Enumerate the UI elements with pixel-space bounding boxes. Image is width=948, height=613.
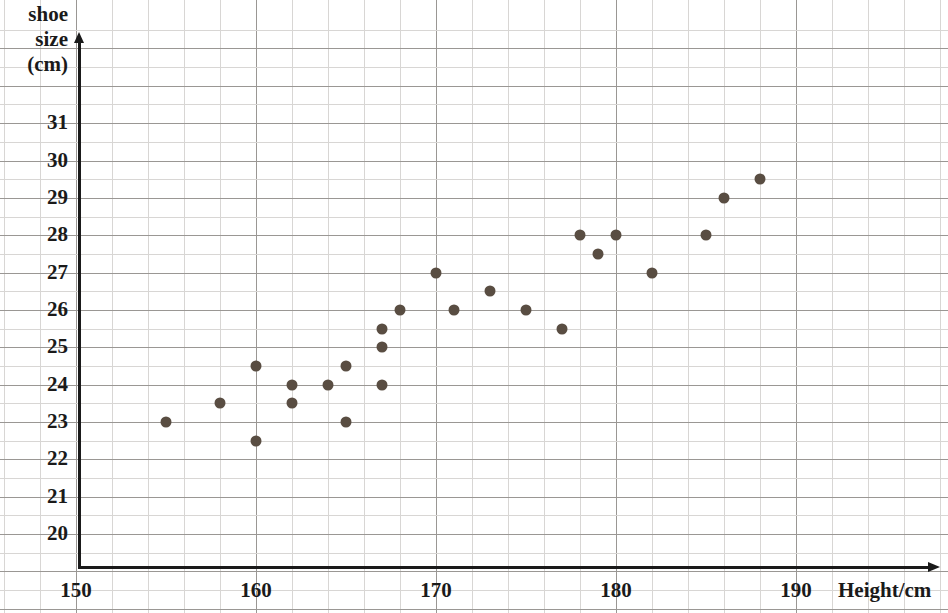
data-point	[575, 230, 586, 241]
gridline-horizontal	[0, 571, 948, 572]
data-point	[341, 360, 352, 371]
x-tick-label: 150	[41, 578, 111, 603]
gridline-vertical	[4, 0, 5, 613]
data-point	[611, 230, 622, 241]
data-point	[485, 286, 496, 297]
gridline-vertical	[364, 0, 365, 613]
gridline-vertical	[508, 0, 509, 613]
gridline-horizontal	[0, 553, 948, 554]
data-point	[647, 267, 658, 278]
data-point	[701, 230, 712, 241]
data-point	[719, 192, 730, 203]
y-axis-title-line-1: size	[0, 27, 68, 52]
y-tick-label: 22	[24, 446, 68, 471]
gridline-horizontal	[0, 403, 948, 404]
gridline-horizontal	[0, 198, 948, 199]
gridline-horizontal	[0, 217, 948, 218]
gridline-vertical	[688, 0, 689, 613]
gridline-vertical	[580, 0, 581, 613]
data-point	[251, 435, 262, 446]
data-point	[215, 398, 226, 409]
data-point	[287, 379, 298, 390]
gridline-vertical	[148, 0, 149, 613]
x-axis-title: Height/cm	[838, 578, 931, 603]
data-point	[395, 304, 406, 315]
y-tick-label: 26	[24, 297, 68, 322]
data-point	[251, 360, 262, 371]
x-tick-label: 160	[221, 578, 291, 603]
gridline-vertical	[832, 0, 833, 613]
x-tick-label: 190	[761, 578, 831, 603]
y-tick-label: 24	[24, 372, 68, 397]
gridline-vertical	[904, 0, 905, 613]
gridline-vertical	[292, 0, 293, 613]
gridline-horizontal	[0, 104, 948, 105]
gridline-horizontal	[0, 385, 948, 386]
gridline-horizontal	[0, 123, 948, 124]
data-point	[449, 304, 460, 315]
x-axis-line	[78, 566, 930, 569]
gridline-vertical	[724, 0, 725, 613]
data-point	[323, 379, 334, 390]
gridline-horizontal	[0, 478, 948, 479]
y-tick-label: 27	[24, 260, 68, 285]
gridline-vertical	[796, 0, 797, 613]
gridline-vertical	[652, 0, 653, 613]
gridline-horizontal	[0, 310, 948, 311]
gridline-horizontal	[0, 459, 948, 460]
y-axis-title-line-0: shoe	[0, 2, 68, 27]
y-tick-label: 31	[24, 110, 68, 135]
gridline-vertical	[256, 0, 257, 613]
gridline-horizontal	[0, 291, 948, 292]
y-tick-label: 20	[24, 521, 68, 546]
gridline-vertical	[544, 0, 545, 613]
gridline-vertical	[328, 0, 329, 613]
gridline-horizontal	[0, 67, 948, 68]
gridline-horizontal	[0, 235, 948, 236]
gridline-horizontal	[0, 329, 948, 330]
data-point	[377, 342, 388, 353]
scatter-chart: shoesize(cm) Height/cm 20212223242526272…	[0, 0, 948, 613]
y-axis-line	[78, 42, 81, 566]
data-point	[593, 248, 604, 259]
y-axis-arrowhead	[74, 32, 84, 43]
y-tick-label: 30	[24, 148, 68, 173]
gridline-horizontal	[0, 534, 948, 535]
y-tick-label: 21	[24, 484, 68, 509]
data-point	[521, 304, 532, 315]
y-axis-title-line-2: (cm)	[0, 52, 68, 77]
x-tick-label: 180	[581, 578, 651, 603]
gridline-vertical	[760, 0, 761, 613]
gridline-vertical	[436, 0, 437, 613]
gridline-horizontal	[0, 30, 948, 31]
gridline-vertical	[112, 0, 113, 613]
x-axis-arrowhead	[928, 562, 940, 572]
gridline-horizontal	[0, 609, 948, 610]
y-tick-label: 23	[24, 409, 68, 434]
gridline-vertical	[184, 0, 185, 613]
y-tick-label: 28	[24, 222, 68, 247]
gridline-horizontal	[0, 273, 948, 274]
gridline-horizontal	[0, 142, 948, 143]
gridline-vertical	[76, 0, 77, 613]
data-point	[377, 323, 388, 334]
gridline-horizontal	[0, 179, 948, 180]
y-axis-title: shoesize(cm)	[0, 2, 68, 77]
y-tick-label: 25	[24, 334, 68, 359]
gridline-horizontal	[0, 497, 948, 498]
data-point	[377, 379, 388, 390]
data-point	[161, 416, 172, 427]
data-point	[431, 267, 442, 278]
y-tick-label: 29	[24, 185, 68, 210]
data-point	[287, 398, 298, 409]
gridline-horizontal	[0, 48, 948, 49]
gridline-horizontal	[0, 441, 948, 442]
gridline-horizontal	[0, 161, 948, 162]
gridline-horizontal	[0, 515, 948, 516]
data-point	[341, 416, 352, 427]
gridline-horizontal	[0, 422, 948, 423]
gridline-horizontal	[0, 366, 948, 367]
gridline-horizontal	[0, 86, 948, 87]
gridline-horizontal	[0, 254, 948, 255]
gridline-vertical	[616, 0, 617, 613]
